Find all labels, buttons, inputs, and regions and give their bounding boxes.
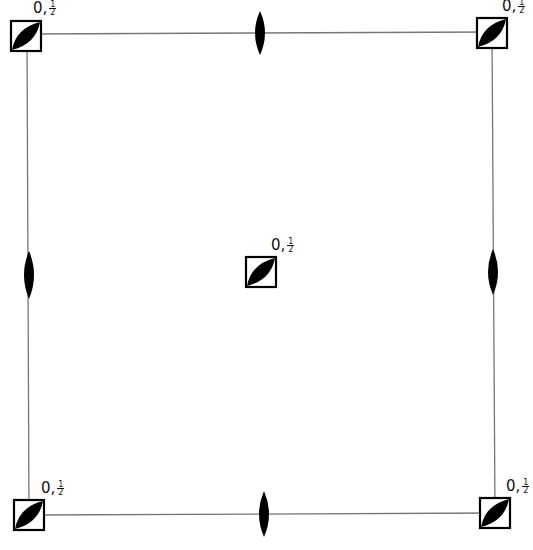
height-label-top-right: 0,12 bbox=[502, 0, 525, 14]
twofold-axis-top-icon bbox=[255, 11, 265, 55]
fraction: 12 bbox=[522, 479, 529, 494]
fraction: 12 bbox=[49, 1, 56, 16]
fourfold-axis-top-right-icon bbox=[477, 18, 507, 48]
height-label-bottom-left: 0,12 bbox=[41, 481, 64, 496]
height-label-bottom-right: 0,12 bbox=[506, 479, 529, 494]
fourfold-axis-bottom-right-icon bbox=[480, 498, 510, 528]
twofold-axis-right-icon bbox=[488, 249, 498, 295]
fourfold-axis-top-left-icon bbox=[11, 21, 41, 51]
twofold-axis-bottom-icon bbox=[259, 491, 269, 537]
fraction: 12 bbox=[287, 238, 294, 253]
twofold-axis-left-icon bbox=[24, 251, 34, 299]
height-label-center: 0,12 bbox=[271, 238, 294, 253]
fourfold-axis-bottom-left-icon bbox=[14, 500, 44, 530]
symmetry-diagram bbox=[0, 0, 533, 550]
fraction: 12 bbox=[57, 481, 64, 496]
height-label-top-left: 0,12 bbox=[33, 1, 56, 16]
fourfold-axis-center-icon bbox=[246, 257, 276, 287]
fraction: 12 bbox=[518, 0, 525, 14]
